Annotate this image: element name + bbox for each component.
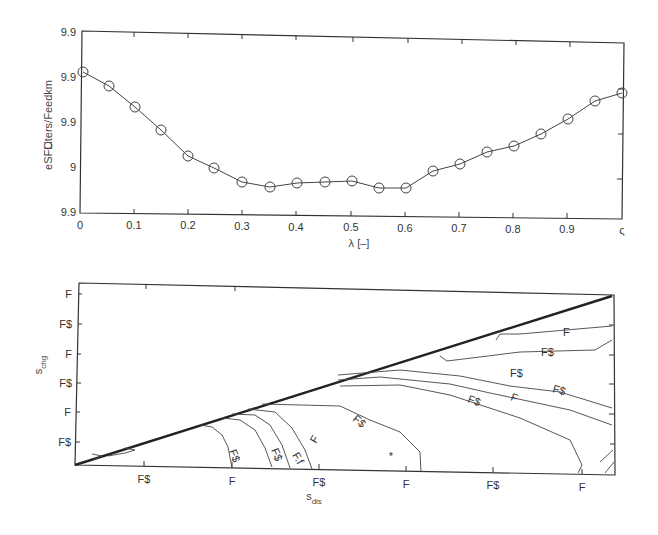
x-tick-8: 0.8 xyxy=(505,223,520,235)
contour-label-3: F.f xyxy=(290,450,307,467)
top-x-axis-label: λ [–] xyxy=(349,237,370,249)
y-tick-5: F$ xyxy=(58,436,71,448)
contour-label-11: F xyxy=(509,391,520,405)
x-tick-6: 0.6 xyxy=(397,222,412,234)
contour-label-4: F xyxy=(307,433,321,445)
optimum-star-marker: * xyxy=(389,450,394,462)
contour-label-8: F$ xyxy=(510,367,523,379)
x-tick-0: 0 xyxy=(77,219,83,231)
x-tick-10: ς xyxy=(619,224,624,236)
y-tick-2: 9.9 xyxy=(61,116,76,128)
contour-label-6: F xyxy=(563,326,570,338)
bottom-chart: F F$ F F$ F F$ F$ F F$ F F$ F schg sdis xyxy=(32,283,615,506)
x-tick-1: F xyxy=(229,475,236,487)
contour-label-1: F$ xyxy=(227,448,243,464)
x-tick-3: 0.3 xyxy=(234,220,249,232)
feasibility-boundary xyxy=(75,296,612,465)
contour-label-5: F$ xyxy=(351,412,369,429)
top-y-axis-label: eSFCLiters/Feedkm xyxy=(42,80,54,170)
x-tick-5: 0.5 xyxy=(343,221,358,233)
y-tick-3: 9 xyxy=(70,161,76,173)
figure-canvas: 0 0.1 0.2 0.3 0.4 0.5 0.6 0.7 0.8 0.9 ς … xyxy=(0,0,658,535)
bottom-y-axis-label: schg xyxy=(32,356,48,374)
bottom-x-axis-label: sdis xyxy=(306,490,322,506)
x-tick-2: F$ xyxy=(313,476,326,488)
y-tick-2: F xyxy=(65,348,72,360)
y-tick-1: F$ xyxy=(59,318,72,330)
bottom-y-tick-labels: F F$ F F$ F F$ xyxy=(58,288,72,448)
x-tick-0: F$ xyxy=(138,473,151,485)
contour-label-2: F$ xyxy=(269,446,285,462)
x-tick-9: 0.9 xyxy=(559,223,574,235)
y-tick-4: F xyxy=(64,406,71,418)
x-tick-5: F xyxy=(579,481,586,493)
x-tick-1: 0.1 xyxy=(126,219,141,231)
contour-labels: F$ F$ F.f F F$ F F$ F$ F$ F$ F xyxy=(227,326,570,467)
top-x-ticks xyxy=(134,32,623,218)
y-tick-0: 9.9 xyxy=(61,26,76,38)
contour-lines xyxy=(92,326,614,473)
contour-label-10: F$ xyxy=(466,393,482,409)
x-tick-7: 0.7 xyxy=(451,222,466,234)
y-tick-0: F xyxy=(65,288,72,300)
x-tick-4: 0.4 xyxy=(288,221,303,233)
contour-label-7: F$ xyxy=(541,346,554,358)
contour-label-9: F$ xyxy=(551,382,567,397)
y-tick-4: 9.9 xyxy=(61,206,76,218)
x-tick-3: F xyxy=(403,478,410,490)
x-tick-4: F$ xyxy=(487,479,500,491)
top-x-tick-labels: 0 0.1 0.2 0.3 0.4 0.5 0.6 0.7 0.8 0.9 ς xyxy=(77,219,625,236)
top-data-line xyxy=(83,72,622,188)
y-tick-1: 9.9 xyxy=(61,71,76,83)
x-tick-2: 0.2 xyxy=(180,219,195,231)
top-chart: 0 0.1 0.2 0.3 0.4 0.5 0.6 0.7 0.8 0.9 ς … xyxy=(42,26,627,249)
top-y-tick-labels: 9.9 9.9 9.9 9 9.9 xyxy=(61,26,76,218)
bottom-x-tick-labels: F$ F F$ F F$ F xyxy=(138,473,586,493)
y-tick-3: F$ xyxy=(59,377,72,389)
